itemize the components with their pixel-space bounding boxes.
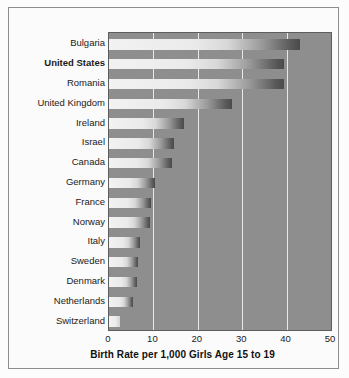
category-label: France <box>17 197 105 207</box>
category-label: Denmark <box>17 276 105 286</box>
category-label: Norway <box>17 217 105 227</box>
category-label: Italy <box>17 236 105 246</box>
bar <box>109 217 150 227</box>
bar-row <box>109 158 331 168</box>
category-label: Switzerland <box>17 316 105 326</box>
gridline <box>331 33 332 330</box>
bar <box>109 158 172 168</box>
category-label: Germany <box>17 177 105 187</box>
category-label: Ireland <box>17 118 105 128</box>
bar-row <box>109 198 331 208</box>
x-axis-tick-label: 0 <box>105 333 110 345</box>
bar <box>109 118 184 128</box>
bar-row <box>109 297 331 307</box>
category-label: Sweden <box>17 256 105 266</box>
bar-row <box>109 316 331 326</box>
bar <box>109 39 300 49</box>
bar-row <box>109 59 331 69</box>
bar <box>109 178 155 188</box>
bar-row <box>109 39 331 49</box>
bar <box>109 316 120 326</box>
x-axis-tick-label: 20 <box>192 333 203 345</box>
bar <box>109 99 232 109</box>
category-label: Bulgaria <box>17 38 105 48</box>
bar-row <box>109 178 331 188</box>
x-axis-tick-label: 30 <box>236 333 247 345</box>
bar <box>109 198 151 208</box>
x-axis-tick-label: 40 <box>280 333 291 345</box>
bar <box>109 79 284 89</box>
bar-row <box>109 118 331 128</box>
category-label: Romania <box>17 78 105 88</box>
bar-row <box>109 217 331 227</box>
category-label: Netherlands <box>17 296 105 306</box>
category-label: Israel <box>17 137 105 147</box>
category-label: United States <box>17 58 105 68</box>
value-axis-ticks: 01020304050 <box>108 333 330 346</box>
x-axis-title: Birth Rate per 1,000 Girls Age 15 to 19 <box>17 349 348 360</box>
bar <box>109 237 140 247</box>
bar-series <box>109 33 331 330</box>
bar <box>109 59 284 69</box>
category-axis-labels: BulgariaUnited StatesRomaniaUnited Kingd… <box>17 32 105 329</box>
bar-row <box>109 138 331 148</box>
bar-row <box>109 257 331 267</box>
category-label: Canada <box>17 157 105 167</box>
bar <box>109 297 133 307</box>
chart-frame: BulgariaUnited StatesRomaniaUnited Kingd… <box>8 7 339 369</box>
bar-row <box>109 99 331 109</box>
bar-row <box>109 277 331 287</box>
plot-area <box>108 32 332 331</box>
category-label: United Kingdom <box>17 98 105 108</box>
x-axis-tick-label: 50 <box>325 333 336 345</box>
bar <box>109 277 137 287</box>
x-axis-tick-label: 10 <box>147 333 158 345</box>
chart-figure: BulgariaUnited StatesRomaniaUnited Kingd… <box>0 0 349 378</box>
bar <box>109 138 174 148</box>
bar <box>109 257 138 267</box>
bar-row <box>109 79 331 89</box>
bar-row <box>109 237 331 247</box>
